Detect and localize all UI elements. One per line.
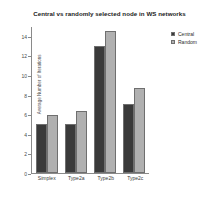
bar-type2c-central (123, 104, 134, 173)
y-axis-tick-mark (28, 37, 31, 38)
y-axis-tick-label: 14 (21, 34, 27, 39)
y-axis-tick-label: 4 (24, 132, 27, 137)
bar-type2c-random (134, 88, 145, 173)
y-axis-tick-label: 6 (24, 113, 27, 118)
y-axis-tick-label: 0 (24, 172, 27, 177)
x-axis-tick-label: Type2a (63, 176, 89, 181)
chart-legend: CentralRandom (171, 31, 197, 47)
x-axis-tick-label: Type2c (122, 176, 148, 181)
bar-group (65, 27, 87, 173)
y-axis-tick-label: 2 (24, 152, 27, 157)
y-axis-tick-mark (28, 56, 31, 57)
y-axis-tick-mark (28, 96, 31, 97)
y-axis-tick-label: 8 (24, 93, 27, 98)
y-axis-title: Average Number of Iterations (38, 36, 43, 132)
x-axis-tick-label: Simplex (34, 176, 60, 181)
bar-group (94, 27, 116, 173)
y-axis-tick-label: 12 (21, 54, 27, 59)
legend-item: Central (171, 31, 197, 37)
bar-simplex-random (47, 115, 58, 173)
x-axis-tick-label: Type2b (93, 176, 119, 181)
bar-chart-figure: Central vs randomly selected node in WS … (0, 0, 219, 197)
bar-type2b-central (94, 46, 105, 173)
bar-type2b-random (105, 31, 116, 173)
y-axis-tick-mark (28, 115, 31, 116)
y-axis-tick-mark (28, 154, 31, 155)
x-axis-line (31, 173, 149, 174)
legend-label: Central (178, 32, 194, 37)
legend-label: Random (178, 40, 197, 45)
y-axis-tick-mark (28, 135, 31, 136)
legend-item: Random (171, 39, 197, 45)
y-axis-tick-label: 10 (21, 74, 27, 79)
x-axis-labels: SimplexType2aType2bType2c (32, 176, 150, 181)
bar-group (123, 27, 145, 173)
y-axis-tick-mark (28, 174, 31, 175)
legend-swatch-icon (171, 40, 175, 44)
bars-layer (32, 27, 149, 173)
plot-area: 02468101214 Average Number of Iterations (31, 27, 149, 174)
bar-type2a-random (76, 111, 87, 173)
legend-swatch-icon (171, 32, 175, 36)
bar-type2a-central (65, 124, 76, 173)
y-axis-tick-mark (28, 76, 31, 77)
chart-title: Central vs randomly selected node in WS … (0, 10, 219, 18)
